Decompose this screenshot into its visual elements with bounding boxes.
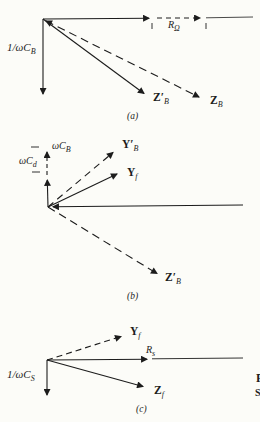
panel-b-susceptance-axis-solid [47,180,48,207]
label-y-prime-b: Y′B [122,139,138,153]
figure-page: 1/ωCB RΩ Z′B ZB (a) ωCB ωCd Y′B Yf Z′B (… [0,0,260,422]
label-text: 1/ωC [7,41,31,53]
label-text: Z [210,94,218,106]
cropped-text-fragment-bottom: S [255,388,260,398]
phasor-diagram-canvas [0,0,260,422]
panel-b-vector-y-prime-b [48,153,113,208]
label-subscript: B [134,144,139,153]
label-text: ωC [19,155,33,166]
panel-c-vector-z-f [47,360,143,387]
label-subscript: f [138,331,140,340]
label-text: 1/ωC [7,368,31,380]
panel-a-vector-z-prime-b [43,19,144,94]
panel-c-x-axis-solid [47,359,147,360]
label-text: Y′ [122,138,134,150]
label-z-prime-b: Z′B [153,92,169,106]
panel-a-caption: (a) [127,112,138,122]
label-subscript: B [31,47,36,56]
panel-b-caption: (b) [127,292,138,302]
label-subscript: B [66,145,71,154]
label-subscript: B [164,97,169,106]
label-y-f: Yf [127,167,138,181]
label-z-f: Zf [154,385,164,399]
label-z-b: ZB [210,95,223,109]
label-z-prime-b-panel-b: Z′B [165,272,181,286]
cropped-text-fragment-top: F [256,372,260,384]
panel-a-x-axis-thin [206,17,253,18]
label-r-s: Rs [146,345,155,358]
label-subscript: B [218,100,223,109]
label-subscript: s [152,349,155,358]
label-text: ωC [52,140,66,151]
label-omega-cd: ωCd [19,156,37,169]
panel-a-x-axis-solid [43,18,149,19]
panel-c-x-axis-thin [152,358,243,359]
panel-a [43,17,253,97]
label-text: Z [154,384,162,396]
label-omega-cb: ωCB [52,141,71,154]
panel-c-vector-y-f [47,337,121,361]
label-text: Z′ [153,91,164,103]
label-subscript: f [135,172,137,181]
label-one-over-omega-cs: 1/ωCS [7,369,35,383]
label-r-omega: RΩ [168,20,180,33]
panel-c [47,337,243,396]
panel-b-vector-y-f [48,174,117,207]
panel-b-vector-z-prime-b [48,207,157,274]
panel-b [31,147,243,274]
panel-c-caption: (c) [136,405,147,415]
label-subscript: Ω [174,24,180,33]
label-subscript: f [162,390,164,399]
label-y-f-panel-c: Yf [130,326,141,340]
label-one-over-omega-cb: 1/ωCB [7,42,36,56]
label-subscript: B [176,277,181,286]
label-subscript: S [31,374,35,383]
panel-b-x-axis [53,205,243,207]
label-subscript: d [33,160,37,169]
label-text: Z′ [165,271,176,283]
